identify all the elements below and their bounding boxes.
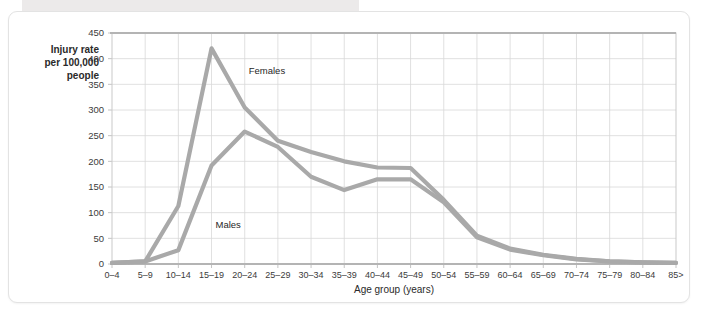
y-axis-tick-label: 200 [88,156,104,167]
series-annotation-females: Females [249,65,286,76]
y-axis-title-line-3: people [67,70,100,81]
y-axis-title: Injury rate per 100,000 people [45,44,100,81]
x-axis-tick-label: 80–84 [630,270,655,280]
plot-border [112,33,676,264]
chart-figure: 050100150200250300350400450 0–45–910–141… [0,0,704,316]
x-axis-tick-label: 50–54 [431,270,456,280]
data-series [112,48,676,263]
y-axis-tick-label: 0 [99,258,104,269]
x-axis-tick-label: 25–29 [265,270,290,280]
series-annotation-males: Males [216,219,242,230]
x-axis-tick-label: 45–49 [398,270,423,280]
y-axis-tick-label: 150 [88,181,104,192]
plot-frame [110,33,676,264]
y-axis-tick-label: 300 [88,104,104,115]
x-axis-tick-label: 5–9 [138,270,153,280]
x-axis-tick-label: 60–64 [498,270,523,280]
y-axis-tick-label: 50 [93,233,104,244]
x-axis-tick-label: 0–4 [104,270,119,280]
y-axis-tick-label: 450 [88,27,104,38]
x-axis-tick-label: 10–14 [166,270,191,280]
y-axis-title-line-1: Injury rate [51,44,100,55]
x-axis-tick-label: 40–44 [365,270,390,280]
x-axis-tick-labels: 0–45–910–1415–1920–2425–2930–3435–3940–4… [104,270,683,280]
series-line-females [112,48,676,263]
x-axis-tick-label: 20–24 [232,270,257,280]
x-axis-tick-label: 35–39 [332,270,357,280]
x-axis-title: Age group (years) [354,284,434,295]
x-axis-tick-label: 65–69 [531,270,556,280]
x-axis-tick-label: 15–19 [199,270,224,280]
series-line-males [112,132,676,263]
x-axis-tick-label: 85> [668,270,683,280]
gridlines [108,33,676,268]
y-axis-tick-label: 100 [88,207,104,218]
x-axis-tick-label: 70–74 [564,270,589,280]
x-axis-tick-label: 55–59 [464,270,489,280]
x-axis-tick-label: 75–79 [597,270,622,280]
line-chart: 050100150200250300350400450 0–45–910–141… [0,0,704,316]
y-axis-title-line-2: per 100,000 [45,57,100,68]
y-axis-tick-label: 250 [88,130,104,141]
x-axis-tick-label: 30–34 [299,270,324,280]
